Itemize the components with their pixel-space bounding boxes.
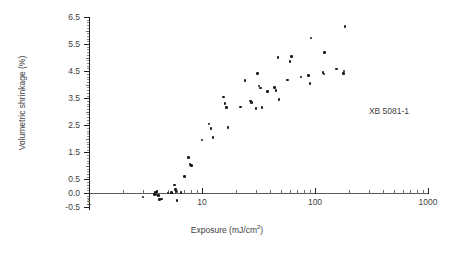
- x-axis-tick: [202, 188, 203, 194]
- y-axis-minor-tick: [87, 55, 89, 56]
- scatter-point: [187, 156, 190, 159]
- y-axis-minor-tick: [87, 158, 89, 159]
- scatter-point: [244, 79, 247, 82]
- y-axis-minor-tick: [87, 22, 89, 23]
- scatter-point: [225, 106, 228, 109]
- y-axis-minor-tick: [86, 166, 89, 167]
- y-axis-minor-tick: [87, 144, 89, 145]
- y-axis-tick: [84, 17, 89, 18]
- y-axis-minor-tick: [87, 123, 89, 124]
- y-axis-minor-tick: [87, 128, 89, 129]
- y-axis-minor-tick: [87, 161, 89, 162]
- y-axis-tick: [84, 125, 89, 126]
- x-axis-title-tail: ): [260, 225, 263, 235]
- y-axis-minor-tick: [87, 169, 89, 170]
- x-axis-minor-tick: [349, 190, 350, 194]
- y-axis-minor-tick: [87, 155, 89, 156]
- scatter-point: [307, 74, 310, 77]
- y-axis-tick-label: 4.5: [56, 66, 80, 76]
- x-axis-minor-tick: [177, 190, 178, 194]
- y-axis-minor-tick: [87, 60, 89, 61]
- x-axis-minor-tick: [394, 190, 395, 194]
- y-axis-minor-tick: [87, 171, 89, 172]
- y-axis-minor-tick: [87, 93, 89, 94]
- series-annotation-label: XB 5081-1: [369, 106, 409, 116]
- y-axis-minor-tick: [86, 58, 89, 59]
- scatter-point: [222, 96, 225, 99]
- y-axis-minor-tick: [86, 85, 89, 86]
- scatter-point: [173, 184, 176, 187]
- scatter-point: [300, 76, 303, 79]
- scatter-point: [180, 191, 183, 194]
- x-axis-minor-tick: [304, 190, 305, 194]
- y-axis-minor-tick: [87, 36, 89, 37]
- x-axis-minor-tick: [369, 190, 370, 194]
- x-axis-minor-tick: [403, 190, 404, 194]
- scatter-point: [259, 87, 262, 90]
- y-axis-minor-tick: [87, 120, 89, 121]
- y-axis-minor-tick: [87, 90, 89, 91]
- y-axis-minor-tick: [87, 109, 89, 110]
- y-axis-minor-tick: [87, 101, 89, 102]
- y-axis-minor-tick: [87, 142, 89, 143]
- x-axis-minor-tick: [423, 190, 424, 194]
- x-axis-tick: [89, 188, 90, 194]
- scatter-point: [344, 25, 347, 28]
- y-axis-minor-tick: [87, 87, 89, 88]
- x-axis-title: Exposure (mJ/cm2): [0, 224, 454, 235]
- y-axis-tick-label: 3.5: [56, 93, 80, 103]
- scatter-point: [286, 79, 289, 82]
- scatter-point: [170, 191, 173, 194]
- y-axis-title: Volumetric shrinkage (%): [17, 23, 27, 183]
- x-axis-minor-tick: [236, 190, 237, 194]
- x-axis-title-base: Exposure (mJ/cm: [191, 225, 257, 235]
- x-axis-minor-tick: [256, 190, 257, 194]
- scatter-point: [278, 98, 281, 101]
- x-axis-minor-tick: [270, 190, 271, 194]
- scatter-point: [227, 126, 230, 129]
- scatter-point: [335, 68, 338, 71]
- x-axis-minor-tick: [417, 190, 418, 194]
- scatter-point: [160, 198, 163, 201]
- scatter-point: [201, 139, 204, 142]
- y-axis-minor-tick: [87, 66, 89, 67]
- scatter-point: [224, 102, 227, 105]
- scatter-point: [208, 123, 211, 126]
- x-axis-minor-tick: [310, 190, 311, 194]
- x-axis-tick: [315, 188, 316, 194]
- x-axis-minor-tick: [191, 190, 192, 194]
- y-axis-minor-tick: [87, 79, 89, 80]
- y-axis-tick: [84, 44, 89, 45]
- y-axis-minor-tick: [87, 147, 89, 148]
- y-axis-minor-tick: [87, 41, 89, 42]
- y-axis-minor-tick: [87, 114, 89, 115]
- y-axis-tick-label: 0.5: [56, 174, 80, 184]
- scatter-point: [183, 175, 186, 178]
- y-axis-minor-tick: [87, 82, 89, 83]
- y-axis-minor-tick: [87, 131, 89, 132]
- chart-figure: -0.50.00.51.52.53.54.55.56.5 1101001000 …: [0, 0, 454, 253]
- y-axis-tick-label: 6.5: [56, 12, 80, 22]
- scatter-point: [239, 106, 242, 109]
- y-axis-minor-tick: [87, 106, 89, 107]
- x-axis-minor-tick: [297, 190, 298, 194]
- y-axis-minor-tick: [87, 117, 89, 118]
- scatter-point: [142, 196, 145, 199]
- scatter-point: [275, 89, 278, 92]
- scatter-point: [212, 136, 215, 139]
- y-axis-tick-label: 2.5: [56, 120, 80, 130]
- scatter-point: [273, 86, 276, 89]
- y-axis-minor-tick: [87, 136, 89, 137]
- scatter-point: [342, 72, 345, 75]
- x-axis-minor-tick: [410, 190, 411, 194]
- x-axis-minor-tick: [197, 190, 198, 194]
- y-axis-minor-tick: [87, 63, 89, 64]
- y-axis-tick: [84, 98, 89, 99]
- y-axis-minor-tick: [86, 139, 89, 140]
- y-axis-minor-tick: [87, 182, 89, 183]
- y-axis-minor-tick: [86, 31, 89, 32]
- scatter-point: [256, 72, 259, 75]
- x-axis-minor-tick: [281, 190, 282, 194]
- y-axis-minor-tick: [87, 74, 89, 75]
- y-axis-minor-tick: [87, 49, 89, 50]
